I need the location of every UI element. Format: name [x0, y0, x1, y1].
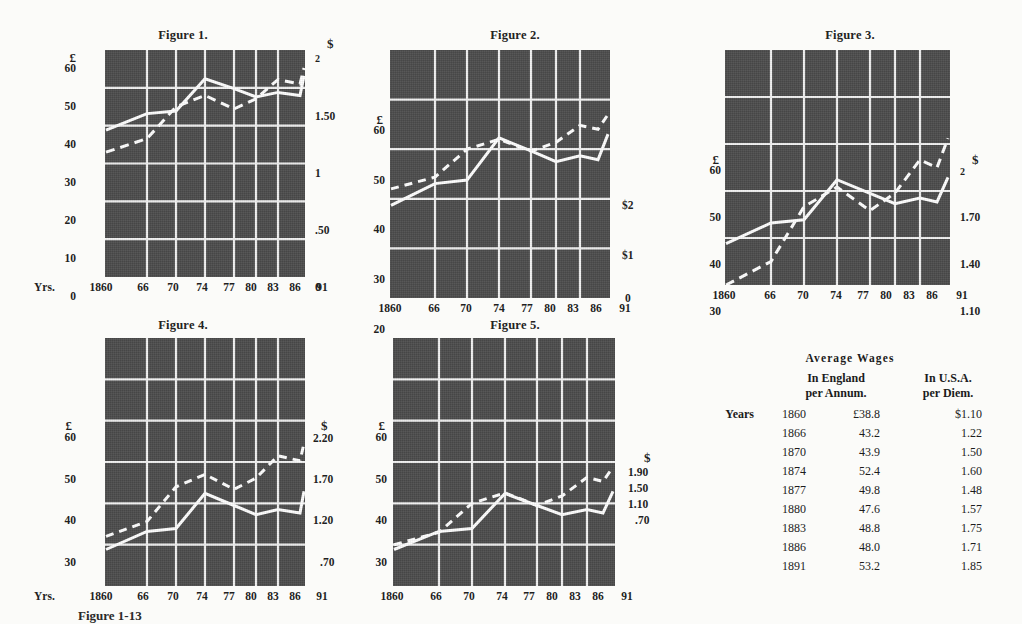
- figure-2: Figure 2.: [345, 28, 675, 303]
- table-cell-england: 48.8: [806, 519, 896, 538]
- figure-3-x-tick: 70: [790, 289, 816, 301]
- plate-caption: Figure 1-13: [78, 608, 142, 624]
- figure-2-right-tick: $2: [622, 199, 634, 211]
- table-cell-usa: 1.71: [896, 538, 1000, 557]
- figure-2-left-tick: 50: [374, 174, 386, 186]
- figure-4: Figure 4.: [20, 318, 350, 603]
- table-cell-england: 43.2: [806, 424, 896, 443]
- table-row: 1883 48.8 1.75: [700, 519, 1000, 538]
- figure-4-x-tick: 74: [189, 590, 215, 602]
- figure-3-x-axis: 1860 66 70 74 77 80 83 86 91: [675, 289, 1022, 307]
- figure-1-years-prefix: Yrs.: [34, 281, 55, 293]
- table-years-spacer: [700, 481, 760, 500]
- table-cell-year: 1880: [760, 500, 806, 519]
- table-cell-england: 53.2: [806, 557, 896, 576]
- figure-2-svg: [390, 50, 610, 298]
- figure-4-x-tick: 70: [160, 590, 186, 602]
- figure-4-x-tick: 91: [310, 590, 334, 602]
- table-years-spacer: [700, 424, 760, 443]
- table-cell-usa: 1.57: [896, 500, 1000, 519]
- table-header-usa: In U.S.A. per Diem.: [896, 371, 1000, 401]
- table-row: 1874 52.4 1.60: [700, 462, 1000, 481]
- figure-5-right-tick: .70: [635, 513, 649, 528]
- figure-3-left-tick: 50: [710, 211, 722, 223]
- figure-5-x-tick: 80: [540, 590, 564, 602]
- figure-3-title: Figure 3.: [720, 28, 980, 43]
- table-cell-usa: $1.10: [896, 405, 1000, 424]
- figure-2-left-tick: 60: [374, 124, 386, 136]
- figure-1-left-tick: 40: [65, 138, 77, 150]
- figure-4-left-tick: 50: [65, 473, 77, 485]
- figure-5-x-tick: 70: [456, 590, 482, 602]
- figure-4-x-tick: 86: [283, 590, 307, 602]
- table-years-label: Years: [700, 405, 760, 424]
- figure-4-x-tick: 83: [261, 590, 285, 602]
- figure-1-dollar-symbol: $: [327, 36, 334, 52]
- table-header-spacer: [722, 371, 776, 401]
- figure-4-left-tick: 30: [65, 556, 77, 568]
- figure-4-x-tick: 66: [130, 590, 156, 602]
- figure-5-dollar-symbol: $: [644, 449, 651, 466]
- table-row: 1870 43.9 1.50: [700, 443, 1000, 462]
- figure-3-svg: [725, 50, 950, 285]
- table-row: Years 1860 £38.8 $1.10: [700, 405, 1000, 424]
- table-header-england-line1: In England: [776, 371, 896, 386]
- figure-1-title: Figure 1.: [48, 28, 318, 43]
- figure-5-title: Figure 5.: [390, 318, 640, 333]
- table-years-spacer: [700, 500, 760, 519]
- figure-1-x-tick: 83: [261, 281, 285, 293]
- figure-5-right-tick: 1.50: [628, 481, 648, 496]
- figure-1-x-tick: 77: [217, 281, 241, 293]
- figure-4-right-tick: .70: [320, 556, 334, 568]
- figure-1-left-axis: £ 60 50 40 30 20 10 0: [28, 50, 76, 63]
- table-years-spacer: [700, 443, 760, 462]
- figure-1-right-tick: 1.50: [315, 110, 335, 122]
- table-header-england: In England per Annum.: [776, 371, 896, 401]
- figure-2-x-tick: 86: [584, 302, 608, 314]
- table-cell-usa: 1.75: [896, 519, 1000, 538]
- average-wages-table: Average Wages In England per Annum. In U…: [700, 352, 1000, 576]
- table-cell-year: 1886: [760, 538, 806, 557]
- figure-3-dollar-symbol: $: [972, 152, 979, 168]
- table-cell-england: £38.8: [806, 405, 896, 424]
- figure-5-x-tick: 1860: [371, 590, 413, 602]
- figure-5-left-tick: 40: [376, 514, 388, 526]
- figure-5-x-tick: 77: [517, 590, 541, 602]
- figure-2-x-tick: 80: [538, 302, 562, 314]
- figure-5-svg: [393, 338, 615, 586]
- figure-4-plot: [105, 338, 305, 586]
- figure-5-right-tick: 1.10: [628, 497, 648, 512]
- table-title: Average Wages: [700, 352, 1000, 364]
- figure-3-right-tick: 1.40: [960, 258, 980, 270]
- figure-3-x-tick: 77: [851, 289, 875, 301]
- figure-2-x-tick: 74: [486, 302, 512, 314]
- table-header-england-line2: per Annum.: [776, 386, 896, 401]
- figure-5-left-tick: 30: [376, 556, 388, 568]
- figure-1-left-tick: 20: [65, 214, 77, 226]
- figure-4-right-tick: 1.70: [313, 473, 333, 485]
- figure-1-x-tick: 86: [283, 281, 307, 293]
- figure-3-x-tick: 91: [950, 289, 974, 301]
- table-cell-england: 47.6: [806, 500, 896, 519]
- figure-3-x-tick: 86: [920, 289, 944, 301]
- figure-4-left-tick: 60: [65, 431, 77, 443]
- table-cell-england: 48.0: [806, 538, 896, 557]
- figure-1-left-tick: 10: [65, 252, 77, 264]
- table-years-spacer: [700, 557, 760, 576]
- figure-2-plot: [390, 50, 610, 298]
- figure-5-x-tick: 91: [615, 590, 639, 602]
- table-cell-year: 1860: [760, 405, 806, 424]
- table-cell-usa: 1.85: [896, 557, 1000, 576]
- figure-1: Figure 1.: [20, 28, 350, 303]
- figure-2-x-tick: 1860: [369, 302, 411, 314]
- figure-3-x-tick: 66: [757, 289, 783, 301]
- table-cell-england: 43.9: [806, 443, 896, 462]
- figure-1-x-tick: 1860: [80, 281, 122, 293]
- figure-3-left-tick: 40: [710, 258, 722, 270]
- table-years-spacer: [700, 519, 760, 538]
- figure-3-x-tick: 83: [897, 289, 921, 301]
- figure-1-plot: [105, 50, 305, 277]
- table-cell-year: 1870: [760, 443, 806, 462]
- figure-1-left-tick: 50: [65, 100, 77, 112]
